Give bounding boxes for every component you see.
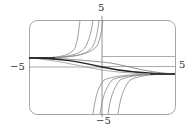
- curve-down-1: [93, 74, 175, 114]
- curve-up-2: [30, 20, 93, 58]
- x-tick-right: 5: [179, 60, 185, 70]
- y-tick-top: 5: [98, 3, 104, 13]
- curve-down-3: [108, 74, 175, 114]
- y-tick-bottom: −5: [96, 116, 111, 126]
- curve-down-2: [100, 74, 175, 114]
- x-tick-left: −5: [10, 62, 25, 72]
- curve-up-1: [30, 20, 80, 58]
- curve-down-4: [118, 74, 175, 114]
- solution-curves-chart: [0, 0, 194, 132]
